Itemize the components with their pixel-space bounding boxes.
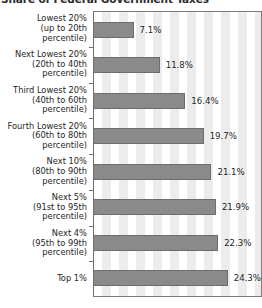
bar-row: 24.3%: [94, 261, 261, 297]
category-label-line: percentile): [42, 69, 87, 79]
category-label-line: Top 1%: [57, 274, 87, 284]
bar: [94, 270, 228, 286]
bar-row: 21.9%: [94, 190, 261, 226]
category-label: Lowest 20%(up to 20thpercentile): [0, 11, 93, 47]
category-label-line: percentile): [42, 141, 87, 151]
bar-row: 19.7%: [94, 119, 261, 155]
category-label: Next Lowest 20%(20th to 40thpercentile): [0, 47, 93, 83]
bar-row: 22.3%: [94, 225, 261, 261]
category-label: Third Lowest 20%(40th to 60thpercentile): [0, 83, 93, 119]
category-label-line: percentile): [42, 34, 87, 44]
bar-row: 11.8%: [94, 48, 261, 84]
bar-value-label: 7.1%: [140, 25, 162, 35]
category-label: Next 5%(91st to 95thpercentile): [0, 190, 93, 226]
chart-title-strip: Share of Federal Government Taxes: [0, 0, 262, 5]
bar-row: 7.1%: [94, 12, 261, 48]
bar-value-label: 21.9%: [222, 202, 249, 212]
bar: [94, 57, 160, 73]
bar: [94, 22, 134, 38]
category-label: Next 4%(95th to 99thpercentile): [0, 226, 93, 262]
category-label-column: Lowest 20%(up to 20thpercentile)Next Low…: [0, 11, 93, 297]
plot-area: 7.1%11.8%16.4%19.7%21.1%21.9%22.3%24.3%: [93, 11, 262, 297]
bar-group: 7.1%11.8%16.4%19.7%21.1%21.9%22.3%24.3%: [94, 12, 261, 296]
category-label-line: percentile): [42, 212, 87, 222]
bar: [94, 164, 211, 180]
chart-body: Lowest 20%(up to 20thpercentile)Next Low…: [0, 11, 262, 297]
bar-chart: Share of Federal Government Taxes Lowest…: [0, 0, 262, 308]
page-title: Share of Federal Government Taxes: [0, 0, 262, 5]
bar-row: 16.4%: [94, 83, 261, 119]
category-label: Fourth Lowest 20%(60th to 80thpercentile…: [0, 118, 93, 154]
category-label: Top 1%: [0, 261, 93, 297]
bar-value-label: 19.7%: [210, 131, 237, 141]
bar-value-label: 16.4%: [191, 96, 218, 106]
bar-value-label: 24.3%: [234, 273, 261, 283]
bar-value-label: 21.1%: [217, 167, 244, 177]
category-label-line: percentile): [42, 248, 87, 258]
bar-value-label: 22.3%: [224, 238, 251, 248]
bar: [94, 235, 218, 251]
bar-value-label: 11.8%: [166, 60, 193, 70]
category-label: Next 10%(80th to 90thpercentile): [0, 154, 93, 190]
category-label-line: percentile): [42, 105, 87, 115]
bar: [94, 128, 204, 144]
bar: [94, 93, 185, 109]
bar: [94, 199, 216, 215]
bar-row: 21.1%: [94, 154, 261, 190]
category-label-line: percentile): [42, 177, 87, 187]
